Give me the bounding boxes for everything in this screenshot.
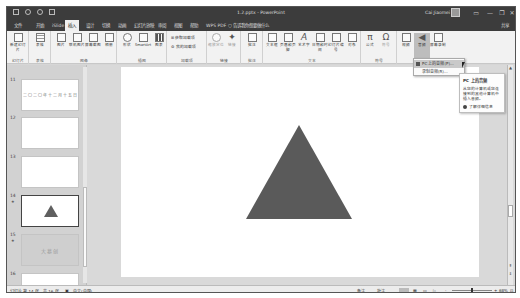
video-icon — [402, 33, 411, 42]
equation-button[interactable]: π公式 — [362, 33, 378, 48]
audio-button[interactable]: ◀音频 — [414, 33, 430, 59]
wordart-button[interactable]: A艺术字 — [296, 33, 312, 48]
undo-icon[interactable] — [25, 9, 31, 15]
scroll-thumb[interactable] — [508, 205, 513, 217]
group-links: 缩放定位 ✦链接 链接 — [207, 31, 241, 64]
tab-design[interactable]: 设计 — [83, 20, 97, 31]
chart-icon — [155, 33, 164, 42]
comments-button[interactable]: 批注 — [377, 288, 385, 293]
previous-slide-arrow[interactable]: ⇞ — [508, 263, 513, 268]
online-pictures-button[interactable]: 联机图片 — [69, 33, 85, 48]
redo-icon[interactable] — [37, 9, 43, 15]
help-icon — [463, 105, 467, 109]
photo-album-button[interactable]: 相册 — [101, 33, 117, 48]
slide-thumbnail-13[interactable] — [21, 156, 79, 188]
language-indicator[interactable]: 中文(中国) — [73, 288, 92, 293]
zoom-in-button[interactable]: + — [494, 288, 497, 293]
slide-thumbnails-pane: 11 二〇二〇年十二月十五日 12 13 14 ★ 15 ★ 大慕创 16 — [7, 65, 87, 285]
slide-number-button[interactable]: 幻灯片编号 — [328, 33, 344, 52]
group-comments: 批注 批注 — [241, 31, 263, 64]
workspace: 11 二〇二〇年十二月十五日 12 13 14 ★ 15 ★ 大慕创 16 ▲ … — [7, 65, 515, 285]
ribbon-display-options-button[interactable]: ▭ — [469, 8, 483, 18]
date-time-button[interactable]: 日期和时间 — [312, 33, 328, 52]
tab-animations[interactable]: 动画 — [115, 20, 129, 31]
tab-help[interactable]: 帮助 — [187, 20, 201, 31]
my-addins-button[interactable]: ⚙ 我的加载项 — [171, 44, 196, 49]
screenshot-button[interactable]: 屏幕截图 — [85, 33, 101, 48]
calendar-icon — [316, 33, 325, 42]
screen-recording-button[interactable]: 屏幕录制 — [430, 33, 446, 48]
normal-view-button[interactable] — [399, 288, 409, 293]
slide-thumbnail-11[interactable]: 二〇二〇年十二月十五日 — [21, 79, 79, 111]
object-button[interactable]: 对象 — [344, 33, 360, 48]
new-slide-button[interactable]: 新建幻灯片 — [10, 33, 26, 52]
menu-item-record-audio[interactable]: 录制音频(R)... — [414, 68, 464, 76]
menu-item-audio-on-pc[interactable]: PC 上的音频(P)... — [414, 60, 464, 68]
transition-star-icon: ★ — [11, 199, 15, 204]
comment-button[interactable]: 批注 — [244, 33, 260, 48]
thumb-text: 大慕创 — [22, 247, 78, 254]
smartart-button[interactable]: SmartArt — [135, 33, 151, 48]
group-label-addins: 加载项 — [167, 58, 206, 63]
zoom-level[interactable]: 68% — [499, 288, 508, 293]
slide-thumbnail-14[interactable] — [21, 195, 79, 227]
online-pictures-label: 联机图片 — [69, 43, 85, 47]
tab-insert[interactable]: 插入 — [65, 20, 79, 31]
symbol-button[interactable]: Ω符号 — [378, 33, 394, 48]
tab-transitions[interactable]: 切换 — [99, 20, 113, 31]
my-addins-label: 我的加载项 — [176, 44, 196, 49]
audio-dropdown-menu: PC 上的音频(P)... 录制音频(R)... — [413, 58, 465, 76]
tooltip-help-link[interactable]: 了解详细信息 — [463, 104, 501, 109]
scroll-up-arrow[interactable]: ▲ — [508, 65, 513, 70]
pictures-button[interactable]: 图片 — [53, 33, 69, 48]
tab-view[interactable]: 视图 — [171, 20, 185, 31]
tell-me-search[interactable]: ○ 告诉我你想要做什么 — [225, 20, 272, 31]
header-footer-label: 页眉和页脚 — [280, 43, 296, 52]
slide-canvas[interactable] — [121, 67, 479, 277]
smartart-icon — [139, 33, 148, 42]
share-button[interactable]: 共享 — [501, 22, 509, 28]
tab-slideshow[interactable]: 幻灯片放映 — [131, 20, 157, 31]
fit-slide-icon[interactable]: ⊡ — [510, 288, 513, 293]
get-addins-button[interactable]: ⊞ 获取加载项 — [171, 35, 195, 40]
tab-review[interactable]: 审阅 — [155, 20, 169, 31]
new-slide-label: 新建幻灯片 — [10, 43, 26, 52]
zoom-out-button[interactable]: - — [445, 288, 446, 293]
tab-home[interactable]: 开始 — [33, 20, 47, 31]
spellcheck-icon[interactable]: ▣ — [65, 288, 69, 293]
save-icon[interactable] — [13, 9, 19, 15]
object-label: 对象 — [348, 43, 356, 47]
notes-button[interactable]: 备注 — [357, 288, 365, 293]
tab-file[interactable]: 文件 — [11, 20, 25, 31]
start-from-beginning-icon[interactable] — [49, 9, 55, 15]
slide-thumbnail-12[interactable] — [21, 117, 79, 149]
tooltip: PC 上的音频 从您的计算机或您连接到的其他计算机中插入音频。 了解详细信息 — [459, 73, 505, 113]
header-footer-button[interactable]: 页眉和页脚 — [280, 33, 296, 52]
table-button[interactable]: 表格 — [32, 33, 48, 48]
zoom-button[interactable]: 缩放定位 — [208, 33, 224, 48]
next-slide-arrow[interactable]: ⇟ — [508, 271, 513, 276]
zoom-slider-thumb[interactable] — [471, 288, 473, 293]
thumb-number: 14 — [10, 193, 16, 198]
slideshow-button[interactable]: ▷ — [433, 288, 436, 293]
user-name[interactable]: Cai Jiaomei — [425, 10, 450, 15]
chart-button[interactable]: 图表 — [151, 33, 167, 48]
thumbnails-scroll-thumb[interactable] — [83, 187, 87, 267]
slide-thumbnail-15[interactable]: 大慕创 — [21, 234, 79, 266]
reading-view-button[interactable]: ▭ — [423, 288, 427, 293]
triangle-shape[interactable] — [246, 125, 352, 219]
textbox-button[interactable]: 文本框 — [264, 33, 280, 48]
audio-label: 音频 — [418, 43, 426, 47]
video-button[interactable]: 视频 — [398, 33, 414, 48]
group-label-tables: 表格 — [29, 58, 50, 63]
avatar[interactable] — [451, 8, 460, 17]
close-button[interactable]: ✕ — [505, 8, 516, 18]
slide-number-label: 幻灯片编号 — [328, 43, 344, 52]
link-button[interactable]: ✦链接 — [224, 33, 240, 48]
thumbnails-scrollbar[interactable] — [83, 67, 87, 283]
shapes-button[interactable]: 形状 — [119, 33, 135, 48]
comment-label: 批注 — [248, 43, 256, 47]
slide-vertical-scrollbar[interactable]: ▲ ⇞ ⇟ — [507, 65, 513, 285]
slide-sorter-button[interactable]: ▦ — [413, 288, 417, 293]
screenshot-label: 屏幕截图 — [85, 43, 101, 47]
